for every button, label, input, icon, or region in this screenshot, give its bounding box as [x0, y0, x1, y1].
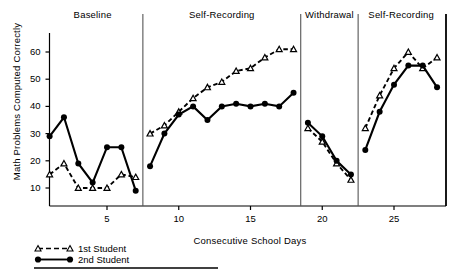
data-point	[161, 131, 167, 137]
data-point	[362, 147, 368, 153]
data-point	[104, 185, 110, 190]
data-point	[204, 117, 210, 123]
data-point	[405, 49, 411, 54]
legend-label-2nd-student: 2nd Student	[78, 254, 129, 265]
data-point	[233, 101, 239, 107]
data-point	[362, 125, 368, 130]
data-point	[90, 185, 96, 190]
data-point	[405, 63, 411, 69]
data-point	[319, 133, 325, 139]
series-line-1	[150, 49, 294, 133]
data-point	[291, 90, 297, 96]
chart-legend: 1st Student 2nd Student	[34, 243, 129, 265]
data-point	[276, 103, 282, 109]
data-point	[118, 171, 124, 176]
data-point	[348, 171, 354, 177]
data-point	[248, 103, 254, 109]
data-point	[434, 54, 440, 59]
legend-swatch-solid-filled-circle	[34, 254, 74, 265]
data-point	[133, 188, 139, 194]
series-line-1	[365, 52, 437, 128]
data-point	[348, 177, 354, 182]
data-point	[219, 79, 225, 84]
data-point	[176, 112, 182, 118]
data-point	[61, 161, 67, 166]
data-point	[291, 46, 297, 51]
series-line-2	[365, 66, 437, 150]
data-point	[420, 63, 426, 69]
data-point	[61, 114, 67, 120]
data-point	[118, 144, 124, 150]
data-point	[434, 84, 440, 90]
legend-label-1st-student: 1st Student	[78, 243, 126, 254]
plot-area	[0, 0, 456, 278]
data-point	[190, 103, 196, 109]
data-point	[75, 185, 81, 190]
data-point	[161, 122, 167, 127]
chart-figure: Math Problems Computed Correctly Consecu…	[0, 0, 456, 278]
data-point	[276, 46, 282, 51]
legend-swatch-dashed-open-triangle	[34, 243, 74, 254]
series-line-2	[308, 123, 351, 175]
data-point	[377, 109, 383, 115]
data-point	[262, 101, 268, 107]
data-point	[334, 158, 340, 164]
data-point	[133, 174, 139, 179]
data-point	[47, 133, 53, 139]
data-point	[204, 84, 210, 89]
data-point	[233, 68, 239, 73]
data-point	[75, 161, 81, 167]
data-point	[90, 180, 96, 186]
data-point	[305, 120, 311, 126]
series-line-1	[308, 128, 351, 180]
legend-item-2nd-student: 2nd Student	[34, 254, 129, 265]
data-point	[219, 103, 225, 109]
legend-item-1st-student: 1st Student	[34, 243, 129, 254]
data-point	[147, 163, 153, 169]
data-point	[104, 144, 110, 150]
data-point	[391, 82, 397, 88]
